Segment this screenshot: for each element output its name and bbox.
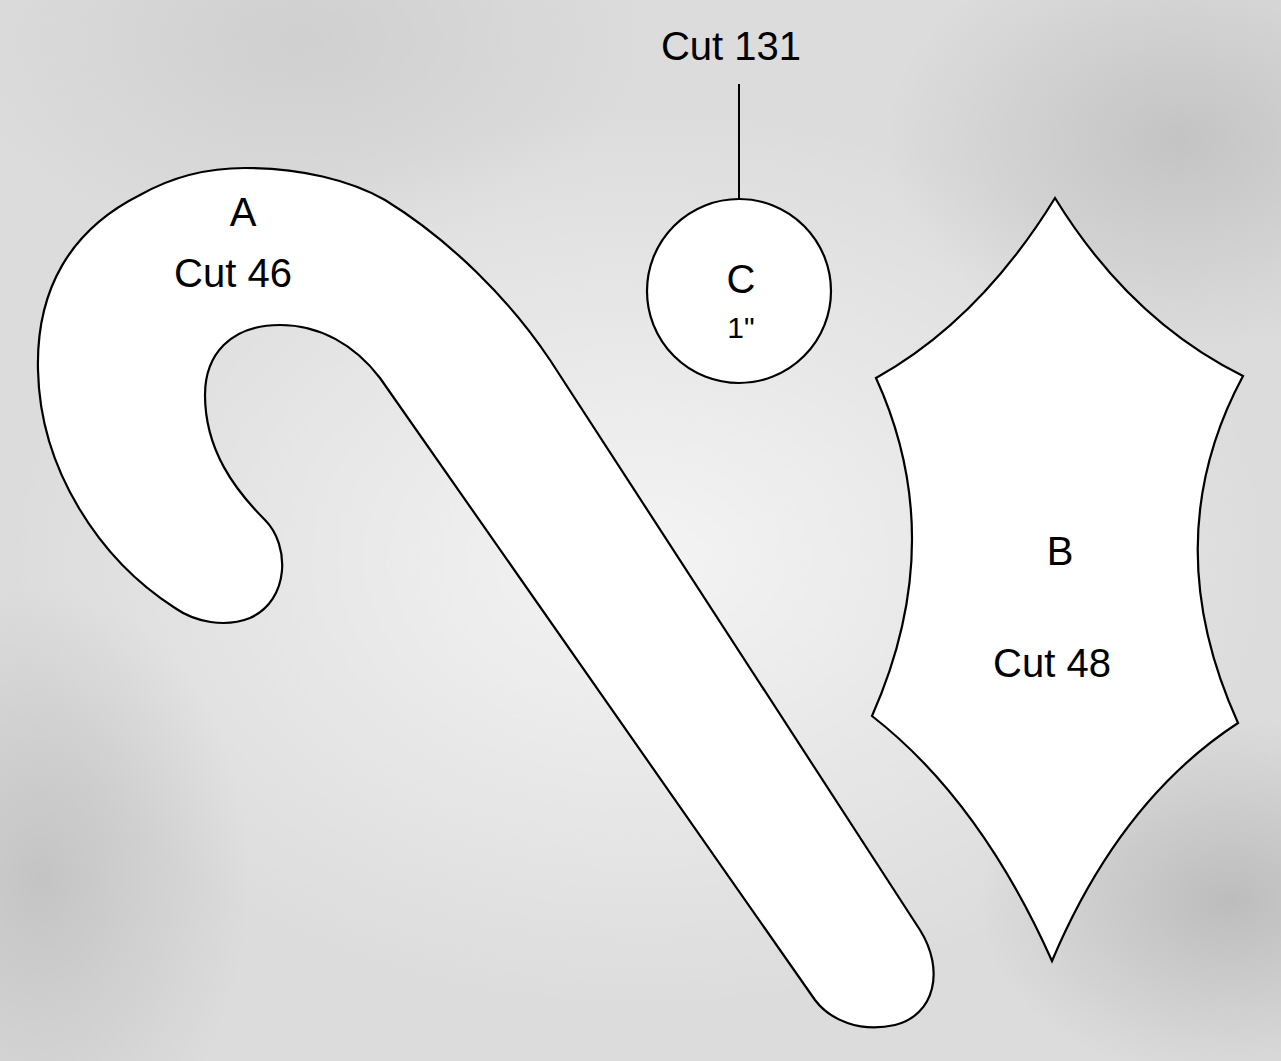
piece-b-cut-count: Cut 48	[993, 641, 1111, 685]
piece-c-cut-count: Cut 131	[661, 24, 801, 68]
piece-c-letter: C	[727, 257, 756, 301]
piece-b-letter: B	[1047, 529, 1074, 573]
pattern-diagram: A Cut 46 Cut 131 C 1" B Cut 48	[0, 0, 1281, 1061]
piece-a-cut-count: Cut 46	[174, 251, 292, 295]
pattern-page: { "diagram": { "type": "applique pattern…	[0, 0, 1281, 1061]
piece-b-holly-leaf: B Cut 48	[872, 198, 1243, 961]
piece-a-letter: A	[230, 190, 257, 234]
holly-leaf-outline	[872, 198, 1243, 961]
piece-c-size: 1"	[727, 311, 754, 344]
piece-c-circle: Cut 131 C 1"	[647, 24, 831, 383]
